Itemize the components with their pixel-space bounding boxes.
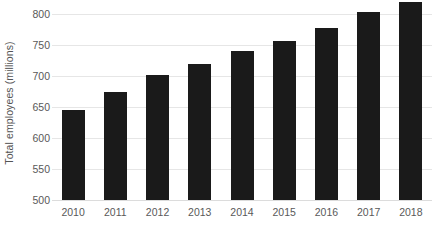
x-axis-tick-labels: 201020112012201320142015201620172018 [52, 203, 432, 223]
y-tick-label: 750 [18, 40, 50, 51]
x-tick-label: 2010 [51, 203, 95, 221]
x-tick-label: 2016 [304, 203, 348, 221]
bar-2011 [104, 92, 127, 201]
bar-2018 [399, 2, 422, 200]
x-tick-label: 2014 [220, 203, 264, 221]
y-tick-label: 500 [18, 195, 50, 206]
bar-2017 [357, 12, 380, 200]
y-tick-label: 700 [18, 71, 50, 82]
x-tick-label: 2015 [262, 203, 306, 221]
x-tick-label: 2011 [93, 203, 137, 221]
x-tick-label: 2013 [178, 203, 222, 221]
x-tick-label: 2017 [347, 203, 391, 221]
y-tick-label: 650 [18, 102, 50, 113]
bar-2016 [315, 28, 338, 200]
x-tick-label: 2018 [389, 203, 433, 221]
y-axis-title: Total employees (millions) [0, 0, 18, 205]
bar-2013 [188, 64, 211, 200]
y-axis-title-label: Total employees (millions) [3, 41, 15, 164]
bar-2014 [231, 51, 254, 200]
bar-2015 [273, 41, 296, 200]
x-tick-label: 2012 [136, 203, 180, 221]
bar-2012 [146, 75, 169, 200]
bar-chart: Total employees (millions) 5005506006507… [0, 0, 438, 230]
y-axis-tick-labels: 500550600650700750800 [18, 0, 50, 210]
bar-2010 [62, 110, 85, 200]
y-tick-label: 550 [18, 164, 50, 175]
y-tick-label: 600 [18, 133, 50, 144]
y-tick-label: 800 [18, 9, 50, 20]
bars-layer [52, 0, 432, 201]
